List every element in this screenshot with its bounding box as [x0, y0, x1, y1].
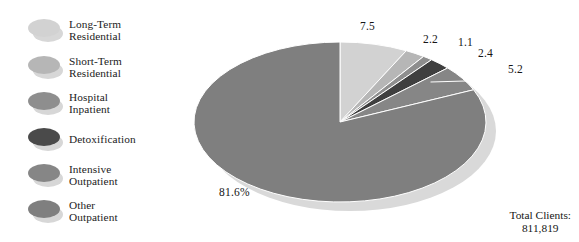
legend-swatch-disc: [28, 128, 60, 146]
legend-label: Detoxification: [69, 133, 136, 145]
slice-value-other-outpatient: 81.6%: [219, 186, 250, 198]
legend-item-hospital-inpatient: Hospital Inpatient: [0, 86, 110, 120]
legend-swatch-disc: [28, 200, 60, 218]
legend-label: Short-Term Residential: [69, 55, 122, 80]
slice-value-intensive-outpatient: 5.2: [508, 63, 523, 75]
chart-figure: Long-Term Residential Short-Term Residen…: [0, 0, 579, 242]
legend-label: Hospital Inpatient: [69, 91, 110, 116]
legend-swatch-disc: [28, 19, 60, 37]
legend-swatch-disc: [28, 164, 60, 182]
slice-value-long-term-residential: 7.5: [360, 20, 375, 32]
legend-swatch-disc: [28, 56, 60, 74]
legend-item-long-term-residential: Long-Term Residential: [0, 13, 121, 47]
legend-swatch-other-outpatient-icon: [28, 200, 62, 222]
legend-swatch-hospital-inpatient-icon: [28, 92, 62, 114]
legend-item-short-term-residential: Short-Term Residential: [0, 50, 122, 84]
legend-item-intensive-outpatient: Intensive Outpatient: [0, 158, 118, 192]
legend-swatch-intensive-outpatient-icon: [28, 164, 62, 186]
slice-value-short-term-residential: 2.2: [423, 33, 438, 45]
legend-swatch-short-term-residential-icon: [28, 56, 62, 78]
legend-label: Other Outpatient: [69, 199, 118, 224]
legend-swatch-disc: [28, 92, 60, 110]
total-clients-text: Total Clients: 811,819: [509, 209, 571, 236]
slice-value-hospital-inpatient: 1.1: [458, 36, 473, 48]
legend-label: Long-Term Residential: [69, 18, 121, 43]
chart-legend: Long-Term Residential Short-Term Residen…: [0, 0, 170, 242]
slice-value-detoxification: 2.4: [478, 47, 493, 59]
legend-label: Intensive Outpatient: [69, 163, 118, 188]
pie-chart: [175, 12, 579, 212]
legend-swatch-long-term-residential-icon: [28, 19, 62, 41]
pie-chart-canvas: [175, 12, 579, 212]
legend-item-detoxification: Detoxification: [0, 122, 136, 156]
legend-item-other-outpatient: Other Outpatient: [0, 194, 118, 228]
legend-swatch-detoxification-icon: [28, 128, 62, 150]
